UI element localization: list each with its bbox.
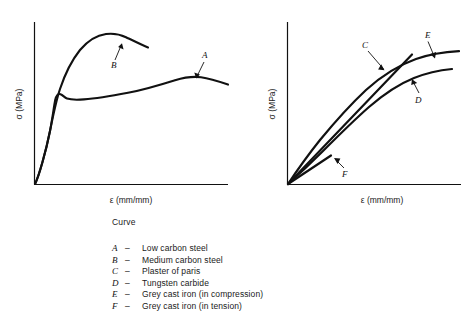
legend-label-a: Low carbon steel [142,243,208,253]
legend-dash-b: – [125,255,142,265]
curve-c-arrowhead [378,64,384,70]
curve-b-medium-carbon-steel [35,34,148,184]
legend-dash-e: – [125,289,142,299]
legend-key-c: C [112,266,125,276]
curve-d-marker: D [414,95,422,105]
left-plot-y-axis-label: σ (MPa) [14,88,24,119]
legend-label-f: Grey cast iron (in tension) [142,301,242,311]
curve-b-arrowhead [118,43,124,49]
legend-key-e: E [112,289,125,299]
legend-item-a: A – Low carbon steel [112,243,412,255]
legend-label-b: Medium carbon steel [142,255,223,265]
curve-f-marker: F [341,169,348,179]
curve-f-grey-cast-iron-tension [288,156,331,185]
curve-a-low-carbon-steel [35,77,228,184]
legend-item-d: D – Tungsten carbide [112,278,412,290]
legend-item-b: B – Medium carbon steel [112,255,412,267]
legend-dash-f: – [125,301,142,311]
left-plot: A B ε (mm/mm) σ (MPa) [14,22,228,205]
legend-dash-d: – [125,278,142,288]
legend-label-e: Grey cast iron (in compression) [142,289,263,299]
curve-a-marker: A [201,50,208,60]
left-plot-x-axis-label: ε (mm/mm) [110,195,153,205]
legend-label-c: Plaster of paris [142,266,200,276]
legend-label-d: Tungsten carbide [142,278,209,288]
legend-item-f: F – Grey cast iron (in tension) [112,301,412,313]
legend-dash-c: – [125,266,142,276]
curve-c-marker: C [362,40,369,50]
legend-key-b: B [112,255,125,265]
legend-item-e: E – Grey cast iron (in compression) [112,289,412,301]
legend-item-c: C – Plaster of paris [112,266,412,278]
legend-list: A – Low carbon steel B – Medium carbon s… [112,243,412,313]
right-plot-x-axis-label: ε (mm/mm) [361,195,404,205]
curve-c-plaster-of-paris [288,55,412,185]
legend-dash-a: – [125,243,142,253]
legend-key-f: F [112,301,125,311]
legend-key-d: D [112,278,125,288]
legend-heading: Curve [112,217,136,227]
legend-key-a: A [112,243,125,253]
curve-e-marker: E [424,30,431,40]
right-plot-y-axis-label: σ (MPa) [267,88,277,119]
right-plot: E D C F ε (mm/mm) σ (MPa) [267,22,461,205]
curve-b-marker: B [111,60,117,70]
